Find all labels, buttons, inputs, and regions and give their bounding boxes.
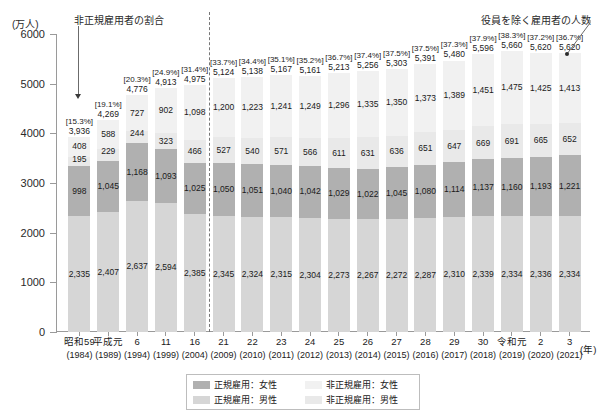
bar-segment[interactable]: 1,040 xyxy=(270,165,292,217)
bar-segment[interactable]: 1,389 xyxy=(443,61,465,130)
legend-item-regular-male: 正規雇用：男性 xyxy=(193,393,301,406)
bar-segment[interactable]: 1,137 xyxy=(472,159,494,215)
bar-segment[interactable]: 1,045 xyxy=(386,167,408,219)
bar-segment-value: 2,335 xyxy=(69,270,90,279)
bar-segment[interactable]: 1,045 xyxy=(97,161,119,213)
bar-segment[interactable]: 1,296 xyxy=(328,73,350,137)
bar-segment[interactable]: 631 xyxy=(357,137,379,168)
bar-segment[interactable]: 1,241 xyxy=(270,75,292,137)
bar-segment[interactable]: 691 xyxy=(501,124,523,158)
bar-segment[interactable]: 2,304 xyxy=(299,218,321,332)
bar-segment[interactable]: 244 xyxy=(126,131,148,143)
bar-segment[interactable]: 1,050 xyxy=(213,163,235,215)
bar-segment[interactable]: 588 xyxy=(97,120,119,149)
legend-swatch-nonregular-female xyxy=(305,381,322,389)
bar-segment[interactable]: 2,315 xyxy=(270,217,292,332)
bar-segment[interactable]: 2,287 xyxy=(414,218,436,332)
bar-segment[interactable]: 195 xyxy=(68,157,90,167)
bar-segment[interactable]: 2,335 xyxy=(68,216,90,332)
stacked-bar[interactable]: 1,3506361,0452,272 xyxy=(386,69,408,332)
stacked-bar[interactable]: 1,4756911,1602,334 xyxy=(501,51,523,332)
bar-segment[interactable]: 2,272 xyxy=(386,219,408,332)
bar-segment[interactable]: 636 xyxy=(386,136,408,168)
bar-segment[interactable]: 2,310 xyxy=(443,217,465,332)
bar-segment[interactable]: 566 xyxy=(299,138,321,166)
stacked-bar[interactable]: 1,2005271,0502,345 xyxy=(213,78,235,332)
bar-segment[interactable]: 1,223 xyxy=(241,77,263,138)
bar-segment[interactable]: 1,051 xyxy=(241,164,263,216)
stacked-bar[interactable]: 1,3896471,1142,310 xyxy=(443,61,465,332)
bar-segment-value: 727 xyxy=(130,109,144,118)
stacked-bar[interactable]: 1,2966111,0292,273 xyxy=(328,73,350,332)
bar-segment[interactable]: 2,345 xyxy=(213,216,235,332)
stacked-bar[interactable]: 1,4256651,1932,336 xyxy=(530,53,552,332)
bar-segment[interactable]: 1,160 xyxy=(501,158,523,216)
bar-segment[interactable]: 1,025 xyxy=(184,163,206,214)
stacked-bar[interactable]: 7272441,1682,637 xyxy=(126,95,148,332)
bar-segment-value: 1,080 xyxy=(415,187,436,196)
bar-segment[interactable]: 2,407 xyxy=(97,212,119,332)
bar-segment[interactable]: 611 xyxy=(328,138,350,168)
bar-total-label: 5,480 xyxy=(444,49,465,59)
bar-segment[interactable]: 2,336 xyxy=(530,216,552,332)
bar-segment[interactable]: 2,637 xyxy=(126,201,148,332)
bar-segment[interactable]: 323 xyxy=(155,133,177,149)
bar-segment-value: 2,345 xyxy=(213,270,234,279)
bar-segment[interactable]: 2,385 xyxy=(184,214,206,332)
stacked-bar[interactable]: 1,4516691,1372,339 xyxy=(472,54,494,332)
stacked-bar[interactable]: 1,2235401,0512,324 xyxy=(241,77,263,332)
bar-segment[interactable]: 1,098 xyxy=(184,85,206,140)
stacked-bar[interactable]: 1,3356311,0222,267 xyxy=(357,71,379,332)
bar-segment[interactable]: 2,324 xyxy=(241,217,263,332)
bar-segment[interactable]: 2,267 xyxy=(357,219,379,332)
bar-nonregular-share-label: [19.1%] xyxy=(95,100,122,109)
bar-segment[interactable]: 1,168 xyxy=(126,143,148,201)
stacked-bar[interactable]: 1,4136521,2212,334 xyxy=(559,53,581,332)
y-tick: 2000 xyxy=(50,233,57,234)
stacked-bar[interactable]: 9023231,0932,594 xyxy=(155,88,177,332)
bar-segment[interactable]: 527 xyxy=(213,137,235,163)
bar-segment[interactable]: 665 xyxy=(530,124,552,157)
stacked-bar[interactable]: 1,0984661,0252,385 xyxy=(184,85,206,332)
bar-segment[interactable]: 2,334 xyxy=(501,216,523,332)
bar-segment[interactable]: 1,093 xyxy=(155,149,177,203)
bar-segment[interactable]: 540 xyxy=(241,138,263,165)
bar-segment[interactable]: 1,114 xyxy=(443,162,465,217)
bar-segment[interactable]: 2,339 xyxy=(472,216,494,332)
bar-segment[interactable]: 466 xyxy=(184,140,206,163)
bar-segment[interactable]: 647 xyxy=(443,130,465,162)
bar-segment-value: 1,223 xyxy=(242,103,263,112)
bar-segment[interactable]: 2,334 xyxy=(559,216,581,332)
bar-segment[interactable]: 1,022 xyxy=(357,169,379,220)
bar-segment[interactable]: 571 xyxy=(270,137,292,165)
bar-segment[interactable]: 229 xyxy=(97,149,119,160)
stacked-bar[interactable]: 1,3736511,0802,287 xyxy=(414,64,436,332)
bar-segment[interactable]: 652 xyxy=(559,123,581,155)
bar-segment[interactable]: 1,193 xyxy=(530,157,552,216)
stacked-bar[interactable]: 5882291,0452,407 xyxy=(97,120,119,332)
bar-segment[interactable]: 2,594 xyxy=(155,203,177,332)
bar-segment[interactable]: 1,080 xyxy=(414,165,436,219)
bar-segment[interactable]: 1,042 xyxy=(299,166,321,218)
bar-segment[interactable]: 1,200 xyxy=(213,78,235,138)
bar-segment[interactable]: 998 xyxy=(68,166,90,216)
stacked-bar[interactable]: 4081959982,335 xyxy=(68,137,90,332)
annotation-leader-left xyxy=(78,26,79,96)
legend-item-nonregular-male: 非正規雇用：男性 xyxy=(305,393,413,406)
bar-segment[interactable]: 1,350 xyxy=(386,69,408,136)
bar-segment-value: 540 xyxy=(245,147,259,156)
bar-segment[interactable]: 1,029 xyxy=(328,168,350,219)
bar-segment[interactable]: 1,221 xyxy=(559,155,581,216)
bar-segment[interactable]: 2,273 xyxy=(328,219,350,332)
bar-segment[interactable]: 1,451 xyxy=(472,54,494,126)
stacked-bar[interactable]: 1,2495661,0422,304 xyxy=(299,76,321,332)
bar-segment[interactable]: 1,249 xyxy=(299,76,321,138)
bar-segment[interactable]: 727 xyxy=(126,95,148,131)
bar-segment[interactable]: 902 xyxy=(155,88,177,133)
bar-segment[interactable]: 669 xyxy=(472,126,494,159)
bar-segment[interactable]: 1,335 xyxy=(357,71,379,137)
bar-segment[interactable]: 651 xyxy=(414,132,436,164)
stacked-bar[interactable]: 1,2415711,0402,315 xyxy=(270,75,292,332)
bar-segment[interactable]: 1,373 xyxy=(414,64,436,132)
bar-segment-value: 1,114 xyxy=(444,185,465,194)
